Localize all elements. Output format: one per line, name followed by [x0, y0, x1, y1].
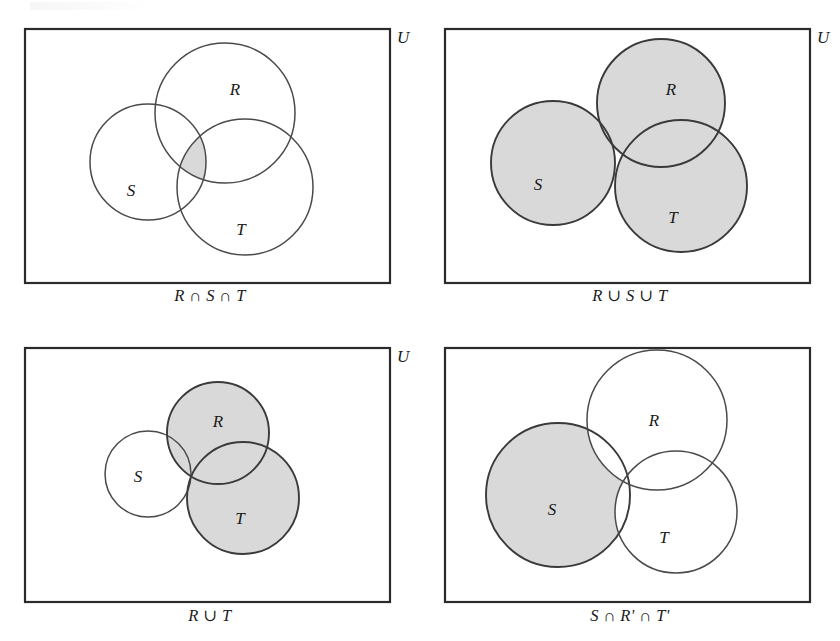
set-circle-r — [155, 43, 295, 183]
panel-caption-1: R ∩ S ∩ T — [0, 286, 420, 306]
set-label-r: R — [665, 80, 677, 99]
set-label-t: T — [668, 208, 679, 227]
universe-label: U — [397, 28, 411, 47]
set-label-t: T — [236, 220, 247, 239]
set-label-r: R — [229, 80, 241, 99]
set-circle-t — [615, 451, 737, 573]
venn-diagram-1: R S T U — [0, 0, 420, 320]
set-label-t: T — [659, 528, 670, 547]
venn-panel-2: R S T U R ∪ S ∪ T — [420, 0, 840, 320]
venn-diagram-4: R S T U — [420, 320, 840, 640]
set-label-r: R — [648, 411, 660, 430]
panel-caption-2: R ∪ S ∪ T — [420, 286, 840, 306]
set-circle-s — [105, 431, 191, 517]
universe-rectangle — [25, 29, 390, 283]
venn-diagram-3: R S T U — [0, 320, 420, 640]
venn-panel-3: R S T U R ∪ T — [0, 320, 420, 640]
universe-label: U — [397, 347, 411, 366]
figure-sheet: R S T U R ∩ S ∩ T R S — [0, 0, 840, 641]
panel-caption-3: R ∪ T — [0, 606, 420, 626]
venn-diagram-2: R S T U — [420, 0, 840, 320]
shaded-region-union-rt — [167, 382, 299, 554]
set-label-s: S — [534, 175, 543, 194]
venn-panel-1: R S T U R ∩ S ∩ T — [0, 0, 420, 320]
set-label-r: R — [212, 412, 224, 431]
set-label-s: S — [127, 181, 136, 200]
set-label-s: S — [548, 500, 557, 519]
venn-panel-4: R S T U S ∩ R' ∩ T' — [420, 320, 840, 640]
panel-caption-4: S ∩ R' ∩ T' — [420, 606, 840, 626]
set-label-t: T — [235, 509, 246, 528]
set-label-s: S — [134, 467, 143, 486]
universe-label: U — [817, 28, 831, 47]
